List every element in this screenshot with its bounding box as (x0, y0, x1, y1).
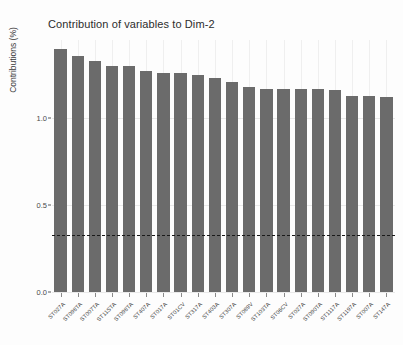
x-axis-tick-mark (335, 293, 336, 297)
y-axis-tick-mark (48, 292, 51, 293)
bar (260, 89, 272, 292)
x-axis-tick-mark (78, 293, 79, 297)
bar (380, 97, 392, 292)
x-axis-tick-mark (284, 293, 285, 297)
horizontal-gridline (52, 118, 395, 119)
y-axis-tick-label: 0.5 (37, 201, 47, 210)
x-axis-tick-mark (163, 293, 164, 297)
chart-title: Contribution of variables to Dim-2 (48, 18, 348, 30)
y-axis-tick-label: 0.0 (37, 288, 47, 297)
y-axis-label: Contributions (%) (8, 0, 18, 120)
y-axis-tick-mark (48, 205, 51, 206)
bar (140, 71, 152, 292)
bar (157, 73, 169, 292)
x-axis-tick-mark (266, 293, 267, 297)
bar (363, 96, 375, 292)
bar (54, 49, 66, 292)
bar (106, 66, 118, 292)
x-axis-tick-mark (369, 293, 370, 297)
x-axis-tick-mark (386, 293, 387, 297)
bar (295, 89, 307, 292)
horizontal-gridline (52, 292, 395, 293)
x-axis-tick-mark (112, 293, 113, 297)
y-axis-tick-mark (48, 118, 51, 119)
bar (329, 90, 341, 292)
x-axis-tick-mark (61, 293, 62, 297)
x-axis-tick-mark (129, 293, 130, 297)
plot-area: 0.00.51.0ST027AST098TAST007TAST11STAST09… (52, 40, 395, 292)
bar (192, 75, 204, 292)
x-axis-tick-mark (215, 293, 216, 297)
reference-line (52, 235, 395, 236)
x-axis-tick-mark (352, 293, 353, 297)
bar (209, 78, 221, 292)
bar (243, 87, 255, 292)
bar (72, 56, 84, 292)
bar (89, 61, 101, 292)
x-axis-tick-mark (181, 293, 182, 297)
x-axis-tick-mark (318, 293, 319, 297)
bar (346, 96, 358, 292)
x-axis-tick-mark (95, 293, 96, 297)
chart-container: Contribution of variables to Dim-2 Contr… (0, 0, 403, 345)
horizontal-gridline (52, 205, 395, 206)
bar (277, 89, 289, 292)
x-axis-tick-mark (232, 293, 233, 297)
y-axis-tick-label: 1.0 (37, 114, 47, 123)
bar (226, 82, 238, 292)
x-axis-tick-mark (146, 293, 147, 297)
bar (312, 89, 324, 292)
x-axis-tick-mark (198, 293, 199, 297)
x-axis-tick-mark (249, 293, 250, 297)
bar (123, 66, 135, 292)
x-axis-tick-mark (301, 293, 302, 297)
bar (174, 73, 186, 292)
